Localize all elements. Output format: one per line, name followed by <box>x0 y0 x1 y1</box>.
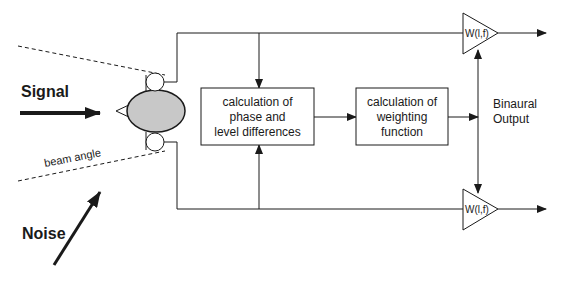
amplifier-bottom-label: W(l,f) <box>465 204 489 215</box>
head-icon <box>116 73 185 151</box>
microphone-bottom-icon <box>146 133 164 151</box>
diagram-canvas: calculation of phase and level differenc… <box>0 0 563 283</box>
binaural-output-label-line2: Output <box>493 112 530 126</box>
block1-line1: calculation of <box>222 95 293 109</box>
amplifier-bottom-icon: W(l,f) <box>463 189 498 230</box>
bottom-signal-path <box>164 142 546 209</box>
block2-line2: weighting <box>376 110 428 124</box>
block1-line3: level differences <box>214 125 301 139</box>
block2-line3: function <box>381 125 423 139</box>
microphone-top-icon <box>146 73 164 91</box>
block1-line2: phase and <box>229 110 285 124</box>
noise-label: Noise <box>22 225 66 242</box>
amplifier-top-icon: W(l,f) <box>463 13 498 54</box>
block2-line1: calculation of <box>367 95 438 109</box>
beam-angle-label: beam angle <box>43 146 102 169</box>
binaural-output-label-line1: Binaural <box>493 97 537 111</box>
block-phase-level-differences: calculation of phase and level differenc… <box>201 88 314 145</box>
signal-label: Signal <box>21 83 69 100</box>
amplifier-top-label: W(l,f) <box>465 28 489 39</box>
top-signal-path <box>164 33 546 88</box>
block-weighting-function: calculation of weighting function <box>356 88 448 145</box>
